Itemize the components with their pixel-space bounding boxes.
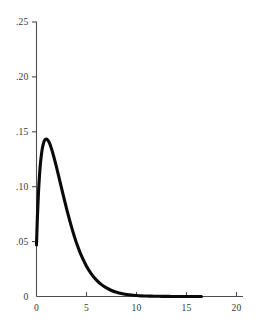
y-tick-label: .10: [16, 181, 29, 192]
x-tick-label: 10: [132, 302, 142, 313]
y-tick-group: 0.05.10.15.20.25: [16, 16, 37, 302]
chart-canvas: 0.05.10.15.20.25 05101520: [0, 0, 260, 324]
y-tick-label: .05: [16, 236, 29, 247]
y-tick-label: .25: [16, 16, 29, 27]
density-plot: 0.05.10.15.20.25 05101520: [0, 0, 260, 324]
x-tick-label: 20: [232, 302, 242, 313]
x-tick-label: 15: [182, 302, 192, 313]
y-tick-label: 0: [24, 291, 29, 302]
y-tick-label: .15: [16, 126, 29, 137]
x-tick-label: 5: [84, 302, 89, 313]
curve-group: [37, 139, 202, 296]
x-tick-label: 0: [34, 302, 39, 313]
density-curve: [37, 139, 202, 296]
axes-group: [37, 22, 244, 297]
y-tick-label: .20: [16, 71, 29, 82]
